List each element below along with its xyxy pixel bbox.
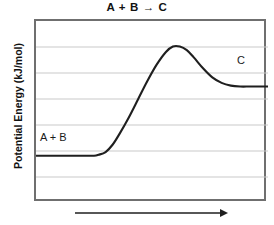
product-label: C (237, 54, 245, 66)
arrow-head (220, 209, 228, 217)
reaction-progress-arrow-icon (75, 207, 228, 219)
gridlines (36, 47, 268, 177)
chart-title: A + B → C (0, 1, 274, 13)
energy-curve (36, 46, 268, 156)
energy-diagram-figure: A + B → C Potential Energy (kJ/mol) A + … (0, 0, 274, 225)
y-axis-label: Potential Energy (kJ/mol) (12, 26, 24, 186)
reactant-label: A + B (40, 131, 67, 143)
plot-svg (36, 21, 268, 203)
plot-area (34, 19, 266, 201)
